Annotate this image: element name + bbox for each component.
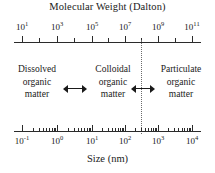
- axis-tick: [92, 125, 93, 131]
- axis-tick: [33, 128, 34, 131]
- axis-tick: [168, 128, 169, 131]
- arrow-shaft: [67, 88, 83, 89]
- bottom-tick-label-1: 100: [51, 136, 63, 146]
- tick-label-exponent: 1: [95, 134, 98, 141]
- category-line-1: Dissolved: [6, 63, 68, 76]
- axis-tick: [123, 128, 124, 131]
- top-tick-label-4: 109: [152, 22, 164, 32]
- molecular-weight-size-scale-figure: Molecular Weight (Dalton) 10110310510710…: [0, 0, 215, 173]
- axis-tick: [81, 128, 82, 131]
- axis-tick: [52, 128, 53, 131]
- axis-tick: [55, 128, 56, 131]
- axis-tick: [39, 128, 40, 131]
- axis-tick: [108, 38, 109, 42]
- axis-tick: [87, 128, 88, 131]
- dissolved-colloidal-double-arrow: [63, 84, 87, 93]
- bottom-tick-label-2: 101: [86, 136, 98, 146]
- tick-label-base: 10: [86, 22, 95, 32]
- axis-tick: [84, 128, 85, 131]
- tick-label-exponent: 2: [128, 134, 131, 141]
- tick-label-base: 10: [152, 22, 161, 32]
- axis-tick: [174, 128, 175, 131]
- axis-tick: [141, 128, 142, 131]
- bottom-tick-label-5: 104: [186, 136, 198, 146]
- bottom-axis-line: [14, 131, 201, 132]
- top-tick-label-2: 105: [86, 22, 98, 32]
- bottom-tick-label-4: 103: [152, 136, 164, 146]
- bottom-tick-label-0: 10-1: [15, 136, 29, 146]
- axis-tick: [190, 128, 191, 131]
- axis-tick: [46, 128, 47, 131]
- axis-tick: [74, 38, 75, 42]
- tick-label-exponent: 9: [161, 20, 164, 27]
- tick-label-base: 10: [186, 136, 195, 146]
- axis-tick: [22, 125, 23, 131]
- axis-tick: [74, 128, 75, 131]
- axis-tick: [120, 128, 121, 131]
- axis-tick: [118, 128, 119, 131]
- tick-label-base: 10: [119, 136, 128, 146]
- category-dissolved-organic-matter: Dissolved organic matter: [6, 63, 68, 101]
- tick-label-base: 10: [51, 136, 60, 146]
- axis-tick: [182, 128, 183, 131]
- axis-tick: [148, 128, 149, 131]
- category-colloidal-organic-matter: Colloidal organic matter: [86, 63, 140, 101]
- top-tick-label-1: 103: [51, 22, 63, 32]
- category-line-3: matter: [152, 88, 210, 101]
- category-line-2: organic: [6, 76, 68, 89]
- axis-tick: [115, 128, 116, 131]
- axis-tick: [187, 128, 188, 131]
- tick-label-exponent: -1: [24, 134, 29, 141]
- tick-label-exponent: 4: [195, 134, 198, 141]
- tick-label-exponent: 7: [128, 20, 131, 27]
- tick-label-base: 10: [119, 22, 128, 32]
- axis-tick: [57, 125, 58, 131]
- axis-tick: [135, 128, 136, 131]
- axis-tick: [102, 128, 103, 131]
- tick-label-exponent: 1: [25, 20, 28, 27]
- tick-label-base: 10: [15, 136, 24, 146]
- axis-tick: [125, 36, 126, 42]
- category-line-3: matter: [6, 88, 68, 101]
- axis-tick: [178, 128, 179, 131]
- tick-label-exponent: 5: [95, 20, 98, 27]
- tick-label-base: 10: [51, 22, 60, 32]
- axis-tick: [125, 125, 126, 131]
- category-line-2: organic: [152, 76, 210, 89]
- axis-tick: [78, 128, 79, 131]
- axis-tick: [156, 128, 157, 131]
- arrow-shaft: [135, 88, 151, 89]
- axis-tick: [192, 36, 193, 42]
- axis-tick: [151, 128, 152, 131]
- bottom-tick-label-3: 102: [119, 136, 131, 146]
- tick-label-exponent: 0: [60, 134, 63, 141]
- tick-label-exponent: 3: [161, 134, 164, 141]
- axis-tick: [43, 128, 44, 131]
- axis-tick: [112, 128, 113, 131]
- top-axis-line: [14, 42, 201, 43]
- axis-tick: [92, 36, 93, 42]
- axis-tick: [90, 128, 91, 131]
- axis-tick: [192, 125, 193, 131]
- axis-tick: [49, 128, 50, 131]
- tick-label-exponent: 3: [60, 20, 63, 27]
- axis-tick: [22, 36, 23, 42]
- axis-tick: [68, 128, 69, 131]
- tick-label-base: 10: [16, 22, 25, 32]
- tick-label-base: 10: [152, 136, 161, 146]
- top-tick-label-3: 107: [119, 22, 131, 32]
- top-tick-label-5: 1011: [184, 22, 199, 32]
- tick-label-exponent: 11: [193, 20, 199, 27]
- axis-tick: [108, 128, 109, 131]
- category-particulate-organic-matter: Particulate organic matter: [152, 63, 210, 101]
- axis-tick: [39, 38, 40, 42]
- axis-tick: [184, 128, 185, 131]
- category-line-1: Particulate: [152, 63, 210, 76]
- top-tick-label-0: 101: [16, 22, 28, 32]
- axis-tick: [158, 125, 159, 131]
- tick-label-base: 10: [86, 136, 95, 146]
- axis-tick: [145, 128, 146, 131]
- axis-tick: [57, 36, 58, 42]
- axis-tick: [175, 38, 176, 42]
- tick-label-base: 10: [184, 22, 193, 32]
